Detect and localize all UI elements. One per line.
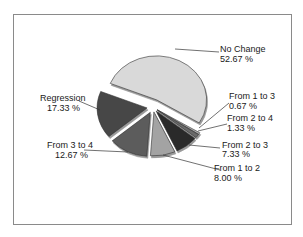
svg-text:From 3 to 4: From 3 to 4 — [47, 140, 93, 150]
svg-text:7.33 %: 7.33 % — [222, 149, 250, 159]
pie-chart: No Change 52.67 % From 1 to 3 0.67 % Fro… — [0, 0, 303, 237]
label-from-3-to-4: From 3 to 4 12.67 % — [47, 140, 93, 160]
svg-text:From 2 to 4: From 2 to 4 — [227, 113, 273, 123]
svg-text:52.67 %: 52.67 % — [220, 54, 253, 64]
svg-text:1.33 %: 1.33 % — [227, 123, 255, 133]
svg-text:From 1 to 2: From 1 to 2 — [214, 163, 260, 173]
label-from-1-to-2: From 1 to 2 8.00 % — [214, 163, 260, 183]
svg-text:17.33 %: 17.33 % — [47, 103, 80, 113]
label-from-1-to-3: From 1 to 3 0.67 % — [229, 91, 275, 111]
label-from-2-to-4: From 2 to 4 1.33 % — [227, 113, 273, 133]
svg-text:12.67 %: 12.67 % — [55, 150, 88, 160]
label-no-change: No Change 52.67 % — [220, 44, 266, 64]
label-regression: Regression 17.33 % — [40, 93, 86, 113]
label-from-2-to-3: From 2 to 3 7.33 % — [222, 140, 268, 159]
svg-text:No Change: No Change — [220, 44, 266, 54]
svg-text:0.67 %: 0.67 % — [229, 101, 257, 111]
svg-text:Regression: Regression — [40, 93, 86, 103]
svg-text:From 1 to 3: From 1 to 3 — [229, 91, 275, 101]
svg-text:8.00 %: 8.00 % — [214, 173, 242, 183]
